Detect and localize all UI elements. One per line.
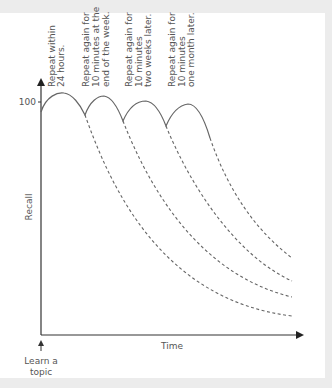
y-tick-label: 100 bbox=[19, 97, 36, 107]
decay-curve-4 bbox=[210, 138, 292, 258]
decay-curve-1 bbox=[85, 115, 292, 316]
svg-text:Repeat again for: Repeat again for bbox=[167, 12, 177, 87]
annotation-4: Repeat again for 10 minutes one month la… bbox=[167, 12, 196, 87]
svg-text:one month later.: one month later. bbox=[186, 13, 196, 88]
annotation-3: Repeat again for 10 minutes two weeks la… bbox=[124, 12, 153, 87]
annotation-1: Repeat within 24 hours. bbox=[47, 25, 66, 87]
start-label-line-2: topic bbox=[30, 367, 52, 377]
svg-text:two weeks later.: two weeks later. bbox=[143, 14, 153, 87]
y-axis-label: Recall bbox=[24, 194, 34, 221]
svg-text:10 minutes at the: 10 minutes at the bbox=[91, 6, 101, 87]
x-axis-label: Time bbox=[160, 341, 183, 351]
forgetting-curve-diagram: 100 Recall Time Learn a topic Repeat wit… bbox=[0, 0, 332, 388]
decay-curve-3 bbox=[166, 126, 292, 281]
svg-text:24 hours.: 24 hours. bbox=[56, 45, 66, 87]
decay-curve-2 bbox=[123, 121, 292, 297]
review-curve bbox=[41, 93, 210, 138]
svg-text:Repeat again for: Repeat again for bbox=[124, 12, 134, 87]
annotation-2: Repeat again for 10 minutes at the end o… bbox=[81, 6, 111, 87]
svg-text:end of the week.: end of the week. bbox=[101, 12, 111, 88]
svg-text:Repeat again for: Repeat again for bbox=[81, 12, 91, 87]
start-label-line-1: Learn a bbox=[24, 356, 58, 366]
